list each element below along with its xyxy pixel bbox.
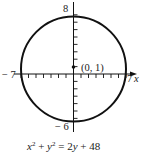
equation-caption: x2 + y2 = 2y + 48 [26, 140, 101, 152]
x-min-label: − 7 [2, 69, 16, 80]
x-axis-label: x [133, 73, 139, 84]
x-axis [14, 72, 137, 79]
circle-graph: (0, 1) 8 − 6 − 7 7 x x2 + y2 = 2y + 48 [0, 0, 142, 155]
y-min-label: − 6 [55, 121, 69, 132]
center-label: (0, 1) [81, 62, 104, 74]
y-max-label: 8 [63, 3, 68, 14]
center-point [72, 65, 76, 69]
x-max-label: 7 [127, 73, 132, 84]
